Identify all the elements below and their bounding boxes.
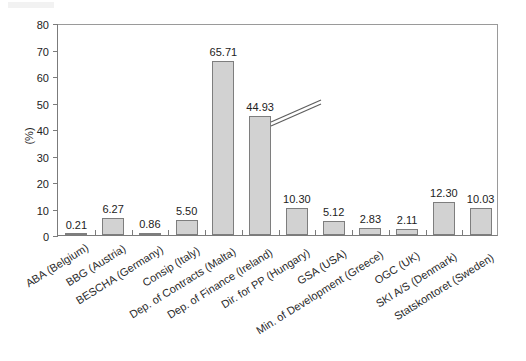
y-axis-title: (%): [23, 127, 35, 144]
bar-value-label: 2.83: [360, 214, 381, 225]
x-axis-tick-mark: [205, 230, 206, 235]
bar[interactable]: [396, 229, 418, 235]
x-axis-tick-mark: [95, 230, 96, 235]
bar[interactable]: [323, 221, 345, 235]
bar[interactable]: [433, 202, 455, 235]
bar[interactable]: [139, 233, 161, 235]
plot-area: 80706050403020100 0.216.270.865.5065.714…: [57, 24, 498, 236]
y-axis-tick-label: 10: [37, 205, 49, 216]
bar[interactable]: [65, 233, 87, 235]
bar-value-label: 2.11: [397, 215, 418, 226]
bar-group: 2.11: [389, 25, 426, 235]
y-axis-tick-label: 80: [37, 20, 49, 31]
bar[interactable]: [176, 220, 198, 235]
bar-value-label: 0.21: [66, 220, 87, 231]
bar-group: 5.12: [315, 25, 352, 235]
bar-group: 2.83: [352, 25, 389, 235]
bar-value-label: 44.93: [246, 102, 274, 113]
x-axis-labels: ABA (Belgium)BBG (Austria)BESCHA (German…: [0, 240, 526, 361]
bar-group: 10.30: [279, 25, 316, 235]
x-axis-tick-mark: [389, 230, 390, 235]
y-axis-tick-label: 40: [37, 126, 49, 137]
bar-group: 0.21: [58, 25, 95, 235]
bar-value-label: 6.27: [102, 204, 123, 215]
bar-group: 12.30: [426, 25, 463, 235]
bar-value-label: 5.12: [323, 207, 344, 218]
bar-group: 0.86: [132, 25, 169, 235]
bar[interactable]: [359, 228, 381, 235]
scan-artifact: [8, 2, 54, 8]
y-axis-tick-label: 70: [37, 46, 49, 57]
x-axis-tick-mark: [462, 230, 463, 235]
bar-value-label: 0.86: [139, 219, 160, 230]
bar[interactable]: [286, 208, 308, 235]
bar-value-label: 65.71: [210, 47, 238, 58]
bar-group: 10.03: [462, 25, 499, 235]
y-axis-tick-label: 50: [37, 99, 49, 110]
x-axis-tick-mark: [315, 230, 316, 235]
bar-chart: (%) 80706050403020100 0.216.270.865.5065…: [0, 0, 526, 361]
x-axis-label: ABA (Belgium): [24, 242, 90, 289]
y-axis-tick-label: 60: [37, 73, 49, 84]
bar-value-label: 10.30: [283, 194, 311, 205]
y-axis-tick-mark: [53, 236, 58, 237]
x-axis-tick-mark: [279, 230, 280, 235]
bar-group: 5.50: [168, 25, 205, 235]
x-axis-tick-mark: [168, 230, 169, 235]
x-axis-tick-mark: [132, 230, 133, 235]
bar[interactable]: [212, 61, 234, 235]
bar-value-label: 5.50: [176, 206, 197, 217]
bar-value-label: 10.03: [467, 194, 495, 205]
bar-group: 6.27: [95, 25, 132, 235]
bar-group: 65.71: [205, 25, 242, 235]
bar[interactable]: [102, 218, 124, 235]
x-axis-tick-mark: [426, 230, 427, 235]
x-axis-tick-mark: [242, 230, 243, 235]
bar-value-label: 12.30: [430, 188, 458, 199]
x-axis-tick-mark: [352, 230, 353, 235]
bars-layer: 0.216.270.865.5065.7144.9310.305.122.832…: [58, 25, 497, 235]
y-axis-tick-label: 20: [37, 179, 49, 190]
y-axis-tick-label: 30: [37, 152, 49, 163]
bar[interactable]: [470, 208, 492, 235]
bar[interactable]: [249, 116, 271, 235]
bar-group: 44.93: [242, 25, 279, 235]
